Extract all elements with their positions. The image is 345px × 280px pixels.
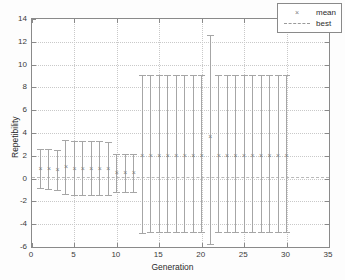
mean-marker: × — [183, 151, 187, 158]
x-tick-label: 25 — [239, 250, 248, 259]
legend-label-mean: mean — [312, 8, 336, 17]
x-axis-tick — [329, 243, 330, 247]
x-tick-label: 10 — [111, 250, 120, 259]
mean-marker-icon: × — [282, 9, 312, 16]
mean-marker: × — [174, 151, 178, 158]
mean-marker: × — [106, 164, 110, 171]
y-tick-label: 10 — [8, 59, 27, 68]
mean-marker: × — [285, 151, 289, 158]
y-axis-title: Repetibility — [10, 116, 20, 158]
mean-marker: × — [191, 151, 195, 158]
x-tick-label: 20 — [196, 250, 205, 259]
y-tick-label: 6 — [8, 105, 27, 114]
mean-marker: × — [81, 164, 85, 171]
plot-area: ×××××××××××××××××××××××××××××× — [31, 18, 330, 248]
dashed-line-icon — [282, 23, 312, 24]
y-axis-tick — [325, 156, 329, 157]
mean-marker: × — [72, 164, 76, 171]
mean-marker: × — [268, 151, 272, 158]
x-tick-label: 15 — [154, 250, 163, 259]
errorbar-cap-lower — [283, 232, 290, 233]
mean-marker: × — [132, 168, 136, 175]
mean-marker: × — [166, 151, 170, 158]
mean-marker: × — [259, 151, 263, 158]
y-tick-label: 8 — [8, 82, 27, 91]
legend-label-best: best — [312, 19, 331, 28]
mean-marker: × — [225, 151, 229, 158]
mean-marker: × — [200, 151, 204, 158]
mean-marker: × — [242, 151, 246, 158]
y-axis-tick — [325, 133, 329, 134]
y-axis-tick — [325, 110, 329, 111]
mean-marker: × — [157, 151, 161, 158]
mean-marker: × — [217, 151, 221, 158]
mean-marker: × — [208, 132, 212, 139]
y-axis-tick — [32, 247, 36, 248]
mean-marker: × — [38, 164, 42, 171]
y-tick-label: -4 — [8, 219, 27, 228]
mean-marker: × — [115, 168, 119, 175]
y-axis-tick — [325, 42, 329, 43]
mean-marker: × — [149, 151, 153, 158]
mean-marker: × — [276, 151, 280, 158]
x-tick-label: 30 — [281, 250, 290, 259]
legend-entry-best: best — [282, 18, 336, 29]
mean-marker: × — [234, 151, 238, 158]
errorbar-cap-upper — [283, 75, 290, 76]
y-axis-tick — [325, 179, 329, 180]
mean-marker: × — [64, 163, 68, 170]
y-axis-tick — [325, 65, 329, 66]
y-tick-label: -6 — [8, 242, 27, 251]
y-axis-tick — [325, 87, 329, 88]
figure-canvas: ×××××××××××××××××××××××××××××× 051015202… — [0, 0, 345, 280]
x-axis-title: Generation — [0, 262, 345, 272]
mean-marker: × — [251, 151, 255, 158]
errorbar-point: × — [281, 19, 293, 247]
mean-marker: × — [123, 168, 127, 175]
x-tick-label: 0 — [29, 250, 33, 259]
legend-entry-mean: × mean — [282, 7, 336, 18]
y-axis-tick — [325, 224, 329, 225]
mean-marker: × — [55, 165, 59, 172]
x-tick-label: 5 — [71, 250, 75, 259]
y-tick-label: 0 — [8, 173, 27, 182]
x-tick-label: 35 — [324, 250, 333, 259]
mean-marker: × — [98, 164, 102, 171]
y-tick-label: -2 — [8, 196, 27, 205]
y-axis-tick — [325, 201, 329, 202]
y-axis-tick — [325, 247, 329, 248]
mean-marker: × — [47, 165, 51, 172]
y-tick-label: 14 — [8, 14, 27, 23]
chart-legend: × mean best — [277, 3, 342, 33]
mean-marker: × — [89, 164, 93, 171]
y-tick-label: 12 — [8, 36, 27, 45]
mean-marker: × — [140, 151, 144, 158]
